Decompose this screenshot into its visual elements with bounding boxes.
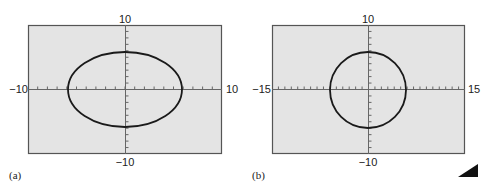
x-min-label-b: −15 — [252, 83, 271, 95]
x-max-label-a: 10 — [226, 83, 238, 95]
panel-a: 10 −10 −10 10 (a) — [9, 13, 238, 182]
corner-triangle-icon — [458, 164, 478, 177]
y-min-label-b: −10 — [359, 156, 378, 168]
figure: 10 −10 −10 10 (a) 10 −10 −15 15 (b) — [0, 0, 486, 189]
y-min-label-a: −10 — [116, 156, 135, 168]
panel-label-a: (a) — [9, 169, 22, 182]
x-min-label-a: −10 — [9, 83, 28, 95]
y-max-label-a: 10 — [119, 13, 131, 25]
panel-b: 10 −10 −15 15 (b) — [252, 13, 480, 182]
x-max-label-b: 15 — [468, 83, 480, 95]
panel-label-b: (b) — [252, 169, 265, 182]
y-max-label-b: 10 — [362, 13, 374, 25]
